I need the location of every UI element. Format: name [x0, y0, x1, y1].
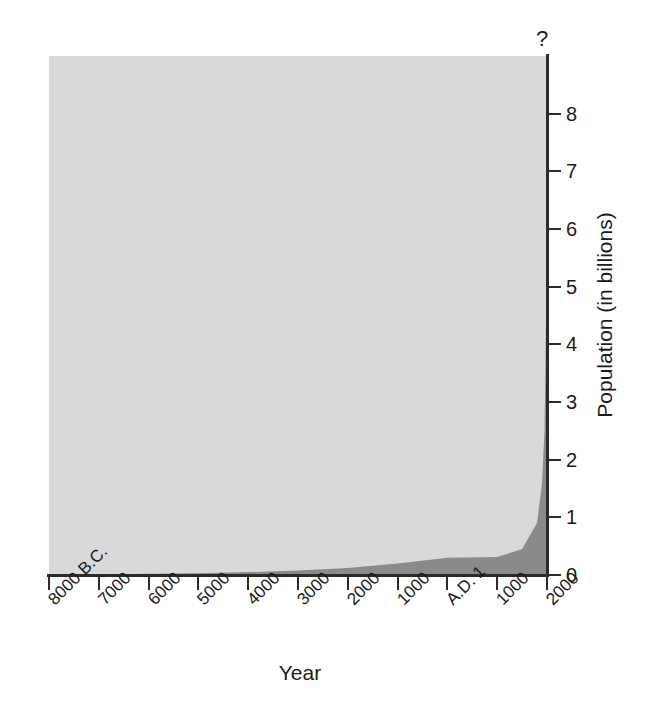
- y-tick-0: [549, 574, 561, 576]
- x-tick-7: [397, 577, 399, 590]
- y-tick-label-7: 7: [566, 161, 577, 181]
- y-tick-7: [549, 170, 561, 172]
- y-axis-title: Population (in billions): [593, 212, 617, 417]
- x-tick-6: [347, 577, 349, 590]
- y-tick-label-6: 6: [566, 219, 577, 239]
- y-tick-1: [549, 516, 561, 518]
- population-area-polygon: [49, 223, 547, 575]
- plot-area: [49, 56, 547, 575]
- x-tick-1: [98, 577, 100, 590]
- y-tick-label-4: 4: [566, 334, 577, 354]
- y-tick-label-5: 5: [566, 277, 577, 297]
- y-tick-5: [549, 286, 561, 288]
- y-tick-8: [549, 113, 561, 115]
- population-area-series: [49, 56, 547, 575]
- y-tick-6: [549, 228, 561, 230]
- x-axis-title: Year: [0, 661, 600, 685]
- y-tick-label-2: 2: [566, 450, 577, 470]
- question-mark-annotation: ?: [536, 26, 548, 52]
- population-growth-chart: ? 8000 B.C.7000600050004000300020001000A…: [0, 0, 658, 711]
- y-tick-label-8: 8: [566, 104, 577, 124]
- y-tick-4: [549, 343, 561, 345]
- y-axis-line: [546, 54, 549, 577]
- y-tick-label-1: 1: [566, 507, 577, 527]
- x-tick-2: [148, 577, 150, 590]
- y-tick-2: [549, 459, 561, 461]
- y-tick-label-0: 0: [566, 565, 577, 585]
- y-tick-label-3: 3: [566, 392, 577, 412]
- y-tick-3: [549, 401, 561, 403]
